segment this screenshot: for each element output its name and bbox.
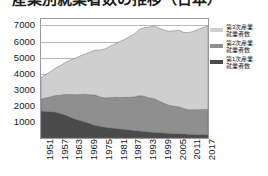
x-axis-tick-label: 2011 xyxy=(191,139,202,159)
legend-swatch xyxy=(210,60,223,64)
y-axis-tick-label: 1000 xyxy=(14,115,35,126)
page-title: 産業別就業者数の推移（日本） xyxy=(12,0,222,8)
x-axis-tick-label: 2005 xyxy=(177,139,188,160)
x-axis: 1951195719631969197519811987199319992005… xyxy=(40,139,207,176)
x-axis-tick-label: 1951 xyxy=(44,139,55,160)
x-axis-tick-label: 1963 xyxy=(73,139,84,160)
legend-item: 第1次産業 就業者数 xyxy=(210,56,268,69)
y-axis-tick-label: 5000 xyxy=(14,51,35,62)
legend-label: 第1次産業 就業者数 xyxy=(226,56,253,69)
x-axis-tick-label: 1987 xyxy=(132,139,143,160)
x-axis-tick-label: 1981 xyxy=(118,139,129,160)
y-axis-tick-label: 6000 xyxy=(14,35,35,46)
y-axis-tick-label: 3000 xyxy=(14,83,35,94)
legend-label: 第2次産業 就業者数 xyxy=(226,40,253,53)
legend-item: 第2次産業 就業者数 xyxy=(210,40,268,53)
chart-screenshot: 産業別就業者数の推移（日本） 7000600050004000300020001… xyxy=(0,0,268,176)
y-axis: 7000600050004000300020001000 xyxy=(0,18,38,137)
stacked-area-series xyxy=(41,19,208,138)
y-axis-tick-label: 7000 xyxy=(14,19,35,30)
legend: 第3次産業 就業者数第2次産業 就業者数第1次産業 就業者数 xyxy=(210,24,268,72)
chart-title-strip: 産業別就業者数の推移（日本） xyxy=(0,0,268,12)
x-axis-tick-label: 2017 xyxy=(206,139,217,160)
plot-area xyxy=(40,18,209,139)
x-axis-tick-label: 1993 xyxy=(147,139,158,160)
x-axis-tick-label: 1975 xyxy=(103,139,114,160)
legend-item: 第3次産業 就業者数 xyxy=(210,24,268,37)
legend-swatch xyxy=(210,28,223,32)
x-axis-tick-label: 1999 xyxy=(162,139,173,160)
y-axis-tick-label: 2000 xyxy=(14,99,35,110)
legend-label: 第3次産業 就業者数 xyxy=(226,24,253,37)
x-axis-tick-label: 1969 xyxy=(88,139,99,160)
legend-swatch xyxy=(210,44,223,48)
x-axis-tick-label: 1957 xyxy=(59,139,70,160)
y-axis-tick-label: 4000 xyxy=(14,67,35,78)
